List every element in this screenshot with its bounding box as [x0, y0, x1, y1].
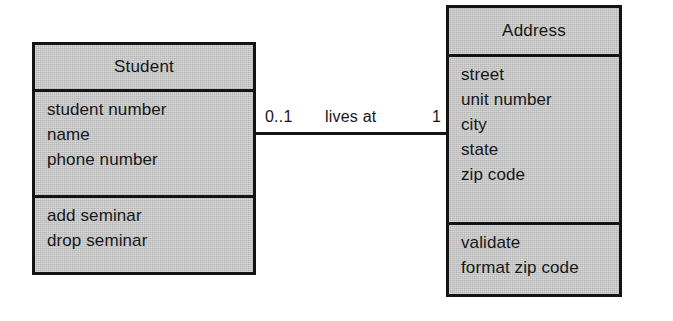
uml-class-diagram-canvas: Student student number name phone number…	[0, 0, 673, 321]
association-target-multiplicity: 1	[432, 108, 441, 126]
class-name-address: Address	[502, 21, 566, 41]
operation-item: add seminar	[47, 203, 253, 228]
class-name-compartment-address: Address	[449, 8, 619, 54]
operations-compartment-student: add seminar drop seminar	[35, 195, 253, 272]
association-line[interactable]	[256, 132, 446, 135]
attribute-item: street	[461, 62, 619, 87]
class-name-student: Student	[114, 57, 174, 77]
association-name-label: lives at	[325, 108, 376, 126]
attribute-item: student number	[47, 97, 253, 122]
operation-item: format zip code	[461, 255, 619, 280]
attribute-item: city	[461, 112, 619, 137]
operation-item: validate	[461, 230, 619, 255]
operation-item: drop seminar	[47, 228, 253, 253]
attributes-compartment-address: street unit number city state zip code	[449, 54, 619, 222]
attributes-compartment-student: student number name phone number	[35, 89, 253, 195]
attribute-item: phone number	[47, 147, 253, 172]
attribute-item: zip code	[461, 162, 619, 187]
attribute-item: unit number	[461, 87, 619, 112]
association-source-multiplicity: 0..1	[265, 108, 293, 126]
operations-compartment-address: validate format zip code	[449, 222, 619, 300]
uml-class-student[interactable]: Student student number name phone number…	[32, 42, 256, 275]
attribute-item: name	[47, 122, 253, 147]
class-name-compartment-student: Student	[35, 45, 253, 89]
attribute-item: state	[461, 137, 619, 162]
uml-class-address[interactable]: Address street unit number city state zi…	[446, 5, 622, 297]
